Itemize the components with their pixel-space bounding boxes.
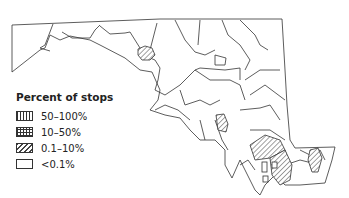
grid-swatch-icon — [16, 127, 33, 137]
legend-label: 50–100% — [41, 111, 87, 122]
legend-item-10-50: 10–50% — [16, 124, 113, 140]
legend-label: 0.1–10% — [41, 143, 84, 154]
hatched-county-frederick — [138, 46, 155, 60]
diagonal-hatch-swatch-icon — [16, 143, 33, 153]
vertical-lines-swatch-icon — [16, 111, 33, 121]
legend-item-0.1-10: 0.1–10% — [16, 140, 113, 156]
legend-title: Percent of stops — [16, 91, 113, 103]
legend-item-lt-0.1: <0.1% — [16, 156, 113, 172]
legend: Percent of stops 50–100% 10–50% 0.1–10% … — [16, 91, 113, 172]
hatched-county-calvert-area — [216, 114, 228, 132]
legend-item-50-100: 50–100% — [16, 108, 113, 124]
empty-swatch-icon — [16, 159, 33, 169]
legend-label: <0.1% — [41, 159, 75, 170]
hatched-county-worcester — [308, 148, 322, 172]
legend-label: 10–50% — [41, 127, 81, 138]
